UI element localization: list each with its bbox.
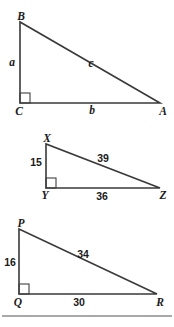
right-angle-marker-c bbox=[20, 93, 30, 103]
vertex-label-r: R bbox=[155, 296, 164, 308]
vertex-label-z: Z bbox=[158, 189, 166, 201]
vertex-label-a: A bbox=[158, 105, 167, 117]
geometry-figure-sheet: B C A a b c X Y Z 15 39 36 P Q R 16 34 3… bbox=[0, 0, 174, 327]
vertex-label-b: B bbox=[16, 10, 25, 22]
side-label-b: b bbox=[89, 104, 95, 116]
side-length-xz: 39 bbox=[97, 152, 109, 164]
side-length-qr: 30 bbox=[73, 296, 85, 308]
vertex-label-q: Q bbox=[14, 296, 22, 308]
geometry-diagram-canvas: B C A a b c X Y Z 15 39 36 P Q R 16 34 3… bbox=[0, 0, 174, 327]
triangle-pqr-group bbox=[19, 229, 157, 294]
triangle-pqr-outline bbox=[19, 229, 157, 294]
vertex-label-y: Y bbox=[41, 189, 49, 201]
triangle-xyz-group bbox=[46, 144, 160, 188]
vertex-label-x: X bbox=[42, 132, 51, 144]
right-angle-marker-y bbox=[46, 178, 56, 188]
vertex-label-c: C bbox=[15, 105, 23, 117]
vertex-label-p: P bbox=[17, 217, 25, 229]
right-angle-marker-q bbox=[19, 284, 29, 294]
side-length-pq: 16 bbox=[4, 256, 16, 268]
side-label-a: a bbox=[9, 56, 15, 68]
side-label-c: c bbox=[88, 57, 93, 69]
side-length-pr: 34 bbox=[77, 248, 89, 260]
side-length-xy: 15 bbox=[30, 156, 42, 168]
side-length-yz: 36 bbox=[96, 190, 108, 202]
triangle-xyz-outline bbox=[46, 144, 160, 188]
